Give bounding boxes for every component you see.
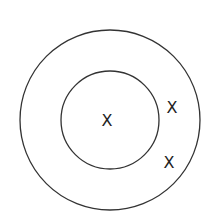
x-mark-center: X bbox=[102, 111, 113, 130]
x-mark-ring-lower: X bbox=[164, 153, 175, 172]
concentric-circles-diagram: X X X bbox=[0, 0, 218, 224]
x-mark-ring-upper: X bbox=[167, 98, 178, 117]
